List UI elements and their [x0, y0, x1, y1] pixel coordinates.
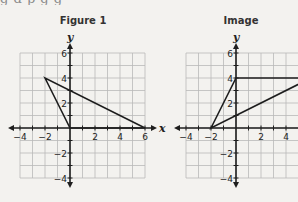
x-tick-label: −2: [204, 132, 217, 142]
x-axis-label: x: [158, 122, 166, 135]
grid-lines: [186, 53, 298, 178]
y-tick-label: −4: [220, 174, 234, 184]
x-tick-label: 2: [92, 132, 98, 142]
arrow-down-icon: [67, 182, 73, 188]
arrow-right-icon: [151, 125, 157, 131]
x-tick-label: 4: [283, 132, 289, 142]
y-tick-label: 4: [61, 74, 67, 84]
y-tick-label: −4: [54, 174, 68, 184]
x-tick-label: −4: [13, 132, 27, 142]
figure-1-plane: −4−2246642−2−4yx: [8, 31, 166, 188]
y-axis-label: y: [232, 31, 241, 44]
x-tick-label: 6: [142, 132, 148, 142]
arrow-down-icon: [233, 182, 239, 188]
y-tick-label: 2: [61, 99, 67, 109]
y-axis-label: y: [66, 31, 75, 44]
x-tick-label: 2: [258, 132, 264, 142]
x-tick-label: −2: [38, 132, 51, 142]
coordinate-planes: −4−2246642−2−4yx −4−224642−2−4y: [0, 0, 298, 202]
y-tick-label: 4: [227, 74, 233, 84]
y-tick-label: 6: [227, 49, 233, 59]
x-tick-label: −4: [179, 132, 193, 142]
x-tick-label: 4: [117, 132, 123, 142]
y-tick-label: 6: [61, 49, 67, 59]
y-tick-label: −2: [220, 149, 233, 159]
grid-lines: [20, 53, 145, 178]
arrow-left-icon: [8, 125, 14, 131]
arrow-left-icon: [174, 125, 180, 131]
image-plane: −4−224642−2−4y: [174, 31, 298, 188]
y-tick-label: 2: [227, 99, 233, 109]
y-tick-label: −2: [54, 149, 67, 159]
